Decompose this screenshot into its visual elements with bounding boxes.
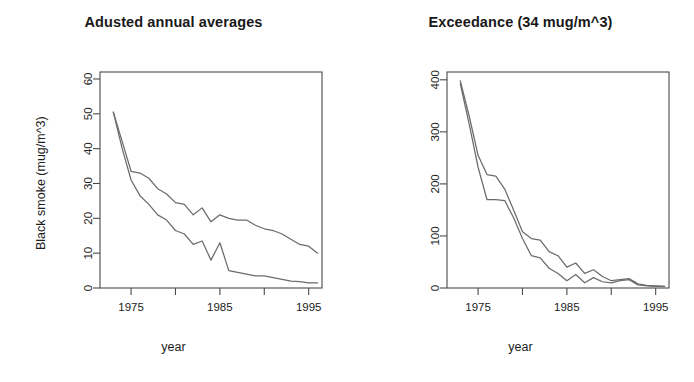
- panel-left-x-tick-label: 1985: [207, 301, 233, 313]
- panel-right-x-tick-label: 1995: [643, 301, 669, 313]
- panel-right-plot: 1975198519950100200300400: [347, 0, 694, 382]
- figure-canvas: Adusted annual averages Black smoke (mug…: [0, 0, 694, 382]
- panel-left-y-tick-label: 40: [82, 142, 94, 155]
- panel-left-y-tick-label: 20: [82, 212, 94, 225]
- panel-left-plot: 1975198519950102030405060: [0, 0, 347, 382]
- panel-left-y-tick-label: 10: [82, 247, 94, 260]
- panel-left-y-tick-label: 30: [82, 177, 94, 190]
- panel-right-x-tick-label: 1975: [465, 301, 491, 313]
- panel-right-series-upper: [460, 81, 664, 287]
- panel-right-x-tick-label: 1985: [554, 301, 580, 313]
- panel-right-y-tick-label: 100: [429, 226, 441, 245]
- panel-right-y-tick-label: 0: [429, 285, 441, 291]
- panel-left-y-tick-label: 50: [82, 107, 94, 120]
- panel-left-y-tick-label: 60: [82, 73, 94, 86]
- panel-adjusted-annual-averages: Adusted annual averages Black smoke (mug…: [0, 0, 347, 382]
- panel-right-series-lower: [460, 84, 664, 286]
- panel-right-y-tick-label: 200: [429, 174, 441, 193]
- panel-right-y-tick-label: 300: [429, 122, 441, 141]
- panel-left-series-lower: [113, 112, 317, 283]
- panel-left-series-upper: [113, 112, 317, 253]
- panel-left-x-tick-label: 1975: [118, 301, 144, 313]
- panel-left-y-tick-label: 0: [82, 285, 94, 291]
- panel-left-x-tick-label: 1995: [296, 301, 322, 313]
- panel-left-frame: [100, 72, 322, 288]
- panel-exceedance: Exceedance (34 mug/m^3) Number of sites …: [347, 0, 694, 382]
- panel-right-y-tick-label: 400: [429, 70, 441, 89]
